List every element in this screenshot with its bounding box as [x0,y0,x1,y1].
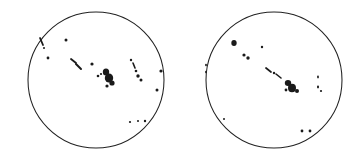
sunspot-dot [100,73,102,75]
sunspot-dot [320,90,322,92]
sunspot-dot [301,130,304,133]
sunspot-group-west-small-spot [47,57,50,60]
sunspot-blob [231,40,236,46]
sunspot-dot [130,59,132,61]
sunspot-dot [159,69,162,72]
solar-disk-drawing-left [0,0,182,165]
sunspot-dot [105,84,108,87]
sunspot-blob [288,84,296,92]
solar-limb-circle-left [28,12,164,148]
sunspot-dot [285,89,288,92]
sunspot-group-northwest-dark-spot [231,40,236,46]
sunspot-dot [135,70,138,73]
sunspot-group-north-isolated-spot [65,39,68,42]
sunspot-dot [205,71,207,73]
sunspot-dot [246,56,249,59]
sunspot-dot [223,118,225,120]
solar-disk-drawing-right [182,0,364,165]
sunspot-dot [140,79,143,82]
sunspot-dot [273,72,275,74]
sunspot-dot [136,74,139,77]
sunspot-dot [47,57,50,60]
sunspot-group-southwest-dot [223,118,225,120]
solar-disk-figure: Left solar disk Right solar disk [0,0,364,165]
sunspot-dot [309,130,312,133]
solar-disk-panel-right: Right solar disk [182,0,364,165]
sunspot-dot [317,86,319,89]
sunspot-dot [205,64,207,66]
sunspot-dot [156,89,159,92]
sunspot-dot [129,121,131,123]
sunspot-dot [90,62,93,65]
sunspot-group-north-small-dot [261,46,263,48]
sunspot-dot [43,47,45,49]
sunspot-dot [97,75,100,78]
sunspot-dot [144,120,146,122]
sunspot-dot [65,39,68,42]
solar-limb-circle-right [206,12,342,148]
solar-disk-panel-left: Left solar disk [0,0,182,165]
sunspot-dot [317,76,319,79]
sunspot-dot [137,120,139,122]
sunspot-blob [109,80,114,85]
sunspot-dot [295,89,299,93]
sunspot-dot [242,53,245,56]
sunspot-dot [261,46,263,48]
